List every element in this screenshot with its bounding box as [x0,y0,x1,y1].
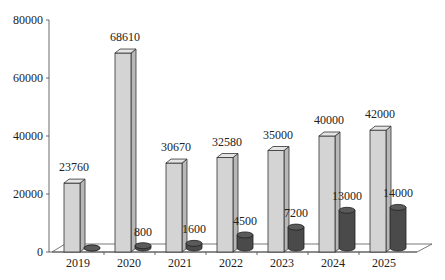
bar-side [80,179,85,252]
x-tick-label: 2024 [321,256,345,270]
bar-cylinder [390,204,406,251]
bar-cylinder [186,240,202,251]
x-tick-label: 2020 [117,256,141,270]
bar-cylinder [339,207,355,251]
bar-chart: 020000400006000080000 201920202021202220… [0,0,445,280]
data-label: 14000 [383,186,413,200]
bar-front [115,53,131,252]
bar-front [64,183,80,252]
x-axis-labels: 2019202020212022202320242025 [66,252,396,270]
x-tick-label: 2022 [219,256,243,270]
cylinder-body [390,207,406,251]
cylinder-top [186,240,202,246]
y-tick-label: 40000 [13,129,43,143]
x-tick-label: 2021 [168,256,192,270]
bar-front [268,151,284,253]
cylinder-top [237,232,253,238]
bar-box [268,147,289,253]
data-label: 40000 [314,113,344,127]
y-tick-label: 0 [37,245,43,259]
y-tick-label: 80000 [13,13,43,27]
cylinder-top [339,207,355,213]
bar-cylinder [237,232,253,251]
data-label: 4500 [233,214,257,228]
bar-cylinder [84,245,100,251]
data-label: 68610 [110,30,140,44]
bar-side [131,49,136,252]
data-label: 13000 [332,189,362,203]
chart-canvas: 020000400006000080000 201920202021202220… [0,0,445,280]
cylinder-top [84,245,100,251]
data-label: 35000 [263,128,293,142]
cylinder-body [339,210,355,251]
bar-side [182,159,187,252]
data-label: 30670 [161,140,191,154]
bar-cylinder [135,243,151,251]
data-label: 32580 [212,135,242,149]
x-tick-label: 2019 [66,256,90,270]
data-label: 1600 [182,222,206,236]
data-label: 42000 [365,107,395,121]
data-label: 7200 [284,206,308,220]
x-tick-label: 2023 [270,256,294,270]
y-tick-label: 20000 [13,187,43,201]
bar-box [115,49,136,252]
y-tick-label: 60000 [13,71,43,85]
x-tick-label: 2025 [372,256,396,270]
data-label: 23760 [59,160,89,174]
bar-box [166,159,187,252]
cylinder-body [288,227,304,251]
bar-box [64,179,85,252]
bar-box [217,154,238,252]
data-label: 800 [134,225,152,239]
bar-front [166,163,182,252]
cylinder-top [390,204,406,210]
cylinder-top [135,243,151,249]
cylinder-top [288,224,304,230]
bar-front [217,158,233,252]
bar-cylinder [288,224,304,251]
